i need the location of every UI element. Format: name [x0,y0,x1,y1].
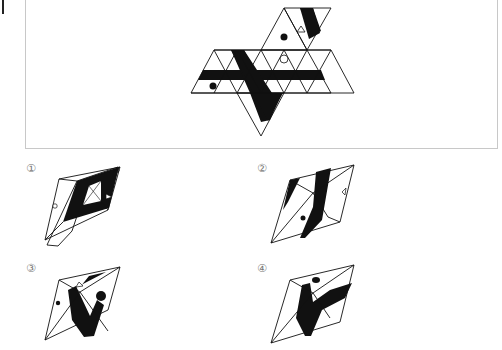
open-circle-icon [53,204,57,208]
filled-dot-icon [281,34,288,41]
option-2[interactable] [271,165,354,243]
net-black-fills [198,8,325,122]
option-3[interactable] [45,267,120,340]
option-2-label[interactable]: ② [257,162,267,175]
net-diagram [191,8,354,136]
filled-dot-icon [210,83,217,90]
option-3-label[interactable]: ③ [26,262,36,275]
open-circle-icon [280,55,288,63]
option-1-label[interactable]: ① [26,162,36,175]
open-triangle-icon [342,188,346,195]
figure-canvas [0,0,502,350]
large-filled-dot-icon [96,291,106,301]
small-filled-dot-icon [56,301,60,305]
option-1[interactable] [45,167,120,246]
filled-dot-icon [301,216,306,221]
option-4-label[interactable]: ④ [257,262,267,275]
open-triangle-icon [297,26,305,32]
option-4[interactable] [271,265,354,343]
filled-oval-dot-icon [312,277,320,283]
open-triangle-icon [76,282,83,287]
